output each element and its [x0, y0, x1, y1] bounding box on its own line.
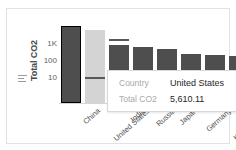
bar-united-states[interactable]	[85, 30, 105, 103]
reference-line	[85, 77, 105, 79]
tooltip-key: Total CO2	[119, 94, 157, 105]
x-axis-label[interactable]: China	[82, 107, 102, 126]
bar-china[interactable]	[61, 26, 81, 103]
tooltip-value: 5,610.11	[170, 94, 204, 105]
y-axis-title-group: Total CO2	[16, 23, 30, 83]
bar-chart-icon	[18, 75, 27, 84]
tooltip-row: CountryUnited States	[108, 78, 236, 92]
y-axis-tick-label: 100	[44, 57, 57, 65]
tooltip-key: Country	[119, 78, 149, 89]
y-axis-tick-label: 1K	[47, 40, 57, 48]
reference-line	[109, 39, 129, 41]
viz-container: Total CO2 1K10010 ChinaUnited StatesIndi…	[6, 8, 230, 144]
y-axis-ticks: 1K10010	[33, 23, 57, 103]
tooltip-value: United States	[170, 78, 224, 89]
chart-screenshot: Total CO2 1K10010 ChinaUnited StatesIndi…	[0, 0, 236, 150]
tooltip-row: Total CO25,610.11	[108, 94, 236, 108]
tooltip[interactable]: CountryUnited StatesTotal CO25,610.11	[107, 70, 236, 112]
y-axis-tick-label: 10	[48, 74, 57, 82]
